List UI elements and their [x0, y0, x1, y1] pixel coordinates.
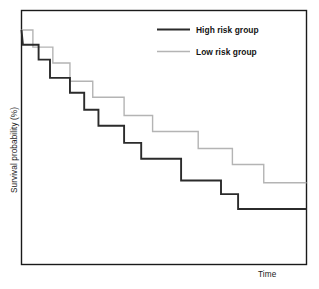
- plot-area: [0, 0, 319, 289]
- x-axis-label: Time: [258, 270, 276, 279]
- survival-curve-figure: Survival probability (%) Time High risk …: [0, 0, 319, 289]
- legend-label-high-risk: High risk group: [196, 25, 259, 35]
- legend-label-low-risk: Low risk group: [196, 47, 257, 57]
- figure-background: [0, 0, 319, 289]
- y-axis-label: Survival probability (%): [10, 50, 19, 250]
